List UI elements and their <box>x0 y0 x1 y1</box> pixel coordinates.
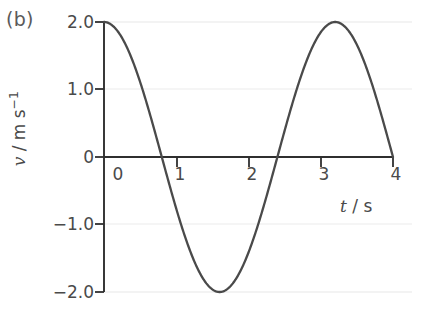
chart-figure: (b) v / m s−1 t / s 2.0 1.0 0 −1.0 −2.0 … <box>0 0 422 319</box>
x-axis-ticks <box>177 157 393 167</box>
y-axis-ticks <box>95 22 104 292</box>
plot-area <box>0 0 422 319</box>
